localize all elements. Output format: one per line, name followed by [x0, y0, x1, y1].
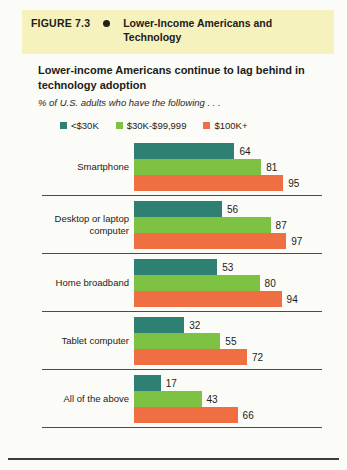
bar-value-label: 55 [225, 336, 236, 347]
bar[interactable] [134, 291, 282, 307]
bar[interactable] [134, 349, 247, 365]
bar-row[interactable]: 87 [134, 217, 302, 233]
bar-value-label: 80 [265, 278, 276, 289]
bar-stack: 174366 [134, 375, 254, 423]
bar-row[interactable]: 94 [134, 291, 298, 307]
legend-item[interactable]: $30K-$99,999 [116, 120, 187, 131]
bar-value-label: 43 [207, 394, 218, 405]
bar[interactable] [134, 317, 184, 333]
bar-row[interactable]: 72 [134, 349, 263, 365]
bar[interactable] [134, 143, 234, 159]
bar-row[interactable]: 53 [134, 259, 298, 275]
bar-row[interactable]: 97 [134, 233, 302, 249]
bar[interactable] [134, 175, 283, 191]
bar-group: All of the above174366 [0, 370, 347, 428]
bar-stack: 648195 [134, 143, 299, 191]
figure-title: Lower-Income Americans and Technology [123, 17, 308, 44]
bar-value-label: 53 [222, 262, 233, 273]
legend-item[interactable]: $100K+ [203, 120, 247, 131]
bar-group: Home broadband538094 [0, 254, 347, 312]
bar-row[interactable]: 64 [134, 143, 299, 159]
bar-value-label: 64 [239, 146, 250, 157]
bar[interactable] [134, 233, 286, 249]
figure-number: FIGURE 7.3 [31, 17, 90, 30]
bar[interactable] [134, 333, 220, 349]
bar-row[interactable]: 95 [134, 175, 299, 191]
bar-row[interactable]: 80 [134, 275, 298, 291]
bar[interactable] [134, 259, 217, 275]
bullet-icon [103, 20, 110, 27]
bar-group: Tablet computer325572 [0, 312, 347, 370]
chart-plot-area: Smartphone648195Desktop or laptop comput… [0, 138, 347, 428]
bar-value-label: 32 [189, 320, 200, 331]
bar-value-label: 66 [243, 410, 254, 421]
group-separator [42, 427, 322, 428]
category-label: Home broadband [26, 277, 129, 289]
bar-row[interactable]: 43 [134, 391, 254, 407]
bar-row[interactable]: 32 [134, 317, 263, 333]
legend-label: $30K-$99,999 [127, 120, 187, 131]
legend-swatch-icon [203, 122, 210, 129]
bar-value-label: 81 [266, 162, 277, 173]
figure-banner: FIGURE 7.3 Lower-Income Americans and Te… [22, 10, 334, 54]
bar-group: Smartphone648195 [0, 138, 347, 196]
bar-row[interactable]: 55 [134, 333, 263, 349]
bar-stack: 325572 [134, 317, 263, 365]
bar-value-label: 87 [276, 220, 287, 231]
bar[interactable] [134, 391, 202, 407]
bar[interactable] [134, 201, 222, 217]
bar[interactable] [134, 217, 271, 233]
bar[interactable] [134, 159, 261, 175]
bar-value-label: 17 [166, 378, 177, 389]
category-label: All of the above [26, 393, 129, 405]
legend-item[interactable]: <$30K [60, 120, 99, 131]
category-label: Tablet computer [26, 335, 129, 347]
bar[interactable] [134, 375, 161, 391]
bar-value-label: 97 [291, 236, 302, 247]
bar-row[interactable]: 17 [134, 375, 254, 391]
figure-bottom-rule [8, 458, 339, 460]
chart-tagline: % of U.S. adults who have the following … [38, 97, 328, 108]
bar-row[interactable]: 66 [134, 407, 254, 423]
bar-row[interactable]: 56 [134, 201, 302, 217]
bar[interactable] [134, 407, 238, 423]
category-label: Smartphone [26, 161, 129, 173]
bar-stack: 538094 [134, 259, 298, 307]
category-label: Desktop or laptop computer [26, 213, 129, 237]
bar-row[interactable]: 81 [134, 159, 299, 175]
legend-swatch-icon [116, 122, 123, 129]
bar-stack: 568797 [134, 201, 302, 249]
legend-label: <$30K [71, 120, 99, 131]
bar-value-label: 72 [252, 352, 263, 363]
bar-value-label: 94 [287, 294, 298, 305]
legend-swatch-icon [60, 122, 67, 129]
figure-container: FIGURE 7.3 Lower-Income Americans and Te… [0, 0, 347, 470]
legend-label: $100K+ [214, 120, 247, 131]
chart-legend: <$30K$30K-$99,999$100K+ [60, 120, 330, 131]
bar-value-label: 56 [227, 204, 238, 215]
bar[interactable] [134, 275, 260, 291]
bar-value-label: 95 [288, 178, 299, 189]
bar-group: Desktop or laptop computer568797 [0, 196, 347, 254]
chart-subtitle: Lower-income Americans continue to lag b… [38, 63, 318, 92]
